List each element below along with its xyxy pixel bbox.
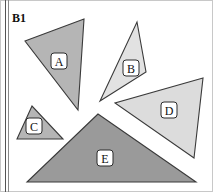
left-margin-rules: [6, 0, 9, 192]
figure-canvas: B1 A B C D E: [0, 0, 213, 192]
label-text-C: C: [30, 120, 38, 134]
label-text-D: D: [165, 104, 174, 118]
label-text-B: B: [127, 62, 135, 76]
panel-title: B1: [12, 11, 26, 25]
shape-group-C: C: [17, 106, 63, 139]
shape-group-B: B: [100, 22, 146, 101]
label-text-A: A: [55, 55, 64, 69]
geometry-figure-panel: B1 A B C D E: [0, 0, 213, 192]
shape-group-A: A: [25, 19, 84, 110]
label-text-E: E: [101, 152, 108, 166]
